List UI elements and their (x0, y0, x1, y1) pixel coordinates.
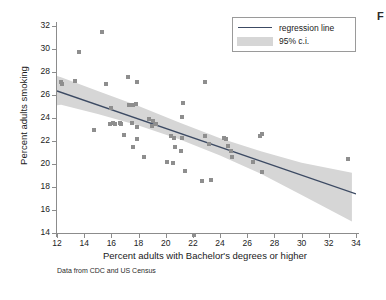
y-tick-mark (52, 49, 56, 50)
data-point (226, 144, 230, 148)
x-tick-label: 30 (290, 238, 314, 248)
x-tick-label: 34 (344, 238, 368, 248)
data-point (230, 155, 234, 159)
y-tick-mark (52, 164, 56, 165)
x-tick-label: 32 (317, 238, 341, 248)
plot-area (57, 26, 356, 233)
y-axis-title: Percent adults smoking (18, 41, 29, 191)
data-point (180, 115, 184, 119)
data-point (207, 142, 211, 146)
data-point (92, 128, 96, 132)
y-tick-mark (52, 95, 56, 96)
x-axis-line (53, 233, 359, 234)
data-point (126, 75, 130, 79)
figure-root: F 14161820222426283032 12141618202224262… (0, 0, 386, 300)
y-tick-label: 18 (28, 182, 50, 191)
y-tick-mark (52, 141, 56, 142)
y-tick-label: 26 (28, 90, 50, 99)
y-tick-label: 16 (28, 205, 50, 214)
y-tick-mark (52, 187, 56, 188)
data-point (104, 82, 108, 86)
y-tick-label: 28 (28, 67, 50, 76)
legend: regression line 95% c.i. (232, 17, 356, 52)
x-axis-title: Percent adults with Bachelor's degrees o… (40, 250, 370, 261)
x-tick-label: 14 (72, 238, 96, 248)
data-point (142, 155, 146, 159)
data-point (122, 133, 126, 137)
data-point (119, 122, 123, 126)
data-point (109, 106, 113, 110)
x-tick-label: 22 (181, 238, 205, 248)
y-tick-mark (52, 210, 56, 211)
y-tick-label: 20 (28, 159, 50, 168)
data-point (200, 179, 204, 183)
data-point (346, 157, 350, 161)
data-point (171, 161, 175, 165)
source-note: Data from CDC and US Census (57, 267, 156, 274)
data-point (100, 30, 104, 34)
y-tick-label: 24 (28, 113, 50, 122)
x-tick-label: 26 (235, 238, 259, 248)
data-point (154, 122, 158, 126)
y-tick-mark (52, 26, 56, 27)
data-point (135, 80, 139, 84)
data-point (251, 160, 255, 164)
x-tick-label: 24 (208, 238, 232, 248)
regression-line (57, 26, 356, 233)
data-point (131, 145, 135, 149)
data-point (180, 136, 184, 140)
y-tick-mark (52, 72, 56, 73)
data-point (209, 178, 213, 182)
data-point (77, 50, 81, 54)
data-point (224, 137, 228, 141)
data-point (130, 121, 134, 125)
data-point (172, 136, 176, 140)
legend-item-confidence-interval: 95% c.i. (237, 34, 351, 47)
data-point (134, 102, 138, 106)
x-tick-label: 28 (262, 238, 286, 248)
data-point (192, 233, 196, 237)
y-tick-mark (52, 233, 56, 234)
legend-line-swatch-icon (237, 22, 273, 33)
data-point (150, 124, 154, 128)
data-point (260, 170, 264, 174)
data-point (203, 80, 207, 84)
data-point (183, 169, 187, 173)
legend-label-regression-line: regression line (279, 23, 334, 33)
data-point (135, 125, 139, 129)
legend-band-swatch-icon (237, 37, 273, 46)
data-point (203, 134, 207, 138)
data-point (135, 137, 139, 141)
x-tick-label: 16 (99, 238, 123, 248)
x-tick-label: 12 (45, 238, 69, 248)
data-point (229, 149, 233, 153)
y-tick-label: 22 (28, 136, 50, 145)
data-point (260, 132, 264, 136)
y-tick-label: 30 (28, 44, 50, 53)
data-point (73, 79, 77, 83)
y-tick-mark (52, 118, 56, 119)
x-tick-label: 18 (127, 238, 151, 248)
data-point (181, 101, 185, 105)
data-point (179, 149, 183, 153)
y-tick-label: 32 (28, 21, 50, 30)
data-point (173, 145, 177, 149)
data-point (60, 82, 64, 86)
figure-caption-fragment: F (377, 10, 386, 22)
x-tick-label: 20 (154, 238, 178, 248)
legend-label-confidence-interval: 95% c.i. (279, 36, 309, 46)
y-tick-label: 14 (28, 228, 50, 237)
data-point (165, 160, 169, 164)
legend-item-regression-line: regression line (237, 21, 351, 34)
